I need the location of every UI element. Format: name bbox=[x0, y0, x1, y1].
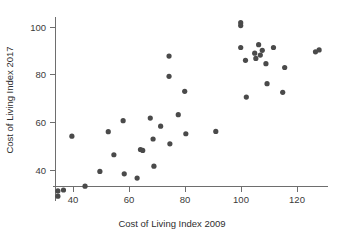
data-point bbox=[252, 51, 257, 56]
data-point bbox=[263, 61, 268, 66]
data-point bbox=[244, 94, 249, 99]
data-point bbox=[213, 129, 218, 134]
data-point bbox=[282, 65, 287, 70]
data-point bbox=[135, 176, 140, 181]
data-point bbox=[106, 129, 111, 134]
data-point bbox=[256, 42, 261, 47]
data-point bbox=[69, 134, 74, 139]
data-point bbox=[238, 45, 243, 50]
data-point bbox=[55, 194, 60, 199]
y-tick-label-60: 60 bbox=[35, 117, 46, 128]
data-point bbox=[280, 90, 285, 95]
data-point bbox=[167, 141, 172, 146]
data-points-group bbox=[55, 20, 321, 199]
plot-area: 406080100120406080100 Cost of Living Ind… bbox=[0, 0, 344, 236]
data-point bbox=[183, 131, 188, 136]
data-point bbox=[122, 171, 127, 176]
data-point bbox=[55, 188, 60, 193]
x-axis-title: Cost of Living Index 2009 bbox=[118, 218, 225, 229]
data-point bbox=[253, 56, 258, 61]
data-point bbox=[260, 48, 265, 53]
data-point bbox=[82, 184, 87, 189]
data-point bbox=[176, 112, 181, 117]
y-tick-label-40: 40 bbox=[35, 165, 46, 176]
data-point bbox=[317, 47, 322, 52]
data-point bbox=[166, 53, 171, 58]
data-point bbox=[61, 187, 66, 192]
data-point bbox=[150, 136, 155, 141]
y-axis-title: Cost of Living Index 2017 bbox=[4, 46, 15, 153]
data-point bbox=[271, 45, 276, 50]
data-point bbox=[166, 74, 171, 79]
data-point bbox=[182, 89, 187, 94]
x-tick-label-80: 80 bbox=[180, 194, 191, 205]
data-point bbox=[121, 118, 126, 123]
axes-group bbox=[53, 17, 327, 201]
scatter-plot-figure: 406080100120406080100 Cost of Living Ind… bbox=[0, 0, 344, 236]
x-tick-label-40: 40 bbox=[68, 194, 79, 205]
x-tick-label-60: 60 bbox=[124, 194, 135, 205]
x-tick-label-120: 120 bbox=[289, 194, 305, 205]
data-point bbox=[111, 152, 116, 157]
data-point bbox=[258, 53, 263, 58]
data-point bbox=[140, 148, 145, 153]
x-tick-label-100: 100 bbox=[233, 194, 249, 205]
data-point bbox=[158, 124, 163, 129]
data-point bbox=[148, 115, 153, 120]
y-tick-label-100: 100 bbox=[30, 22, 46, 33]
data-point bbox=[151, 164, 156, 169]
data-point bbox=[238, 23, 243, 28]
data-point bbox=[97, 169, 102, 174]
data-point bbox=[243, 58, 248, 63]
ticks-group bbox=[50, 27, 297, 192]
y-tick-label-80: 80 bbox=[35, 69, 46, 80]
data-point bbox=[264, 81, 269, 86]
